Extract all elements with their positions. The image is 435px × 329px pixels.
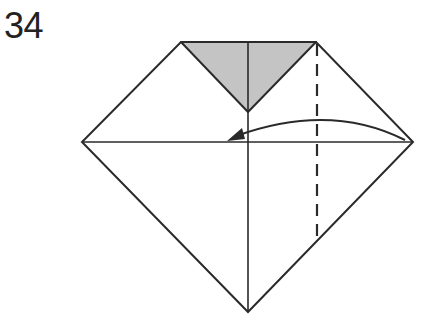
fold-diagram [0, 0, 435, 329]
fold-arrow-curve [236, 120, 405, 140]
arrow-head-icon [227, 128, 245, 141]
